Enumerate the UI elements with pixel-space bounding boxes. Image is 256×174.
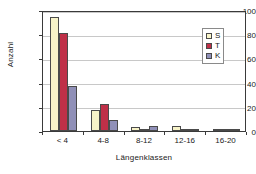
bar-t-0: [59, 33, 68, 131]
x-axis-tick-mark: [164, 132, 165, 135]
bar-t-3: [181, 129, 190, 131]
legend-item-s: S: [206, 31, 220, 41]
x-axis-tick-label: 12-16: [175, 136, 195, 145]
bar-s-2: [131, 127, 140, 131]
bar-k-2: [149, 126, 158, 131]
x-axis-tick-mark: [83, 132, 84, 135]
legend-swatch-icon: [206, 53, 212, 59]
x-axis-tick-label: 4-8: [97, 136, 109, 145]
bar-group: [165, 12, 206, 131]
bar-k-1: [109, 120, 118, 131]
x-axis-tick-mark: [42, 132, 43, 135]
legend-swatch-icon: [206, 33, 212, 39]
bar-k-3: [190, 129, 199, 131]
x-axis-tick-label: 8-12: [136, 136, 152, 145]
bar-t-1: [100, 104, 109, 131]
x-axis-tick-label: 16-20: [215, 136, 235, 145]
bar-chart: Anzahl 020406080100 < 44-88-1212-1616-20…: [0, 0, 256, 174]
x-axis-title: Längenklassen: [42, 153, 246, 162]
bar-k-4: [231, 129, 240, 131]
bar-group: [43, 12, 84, 131]
y-axis-title: Anzahl: [6, 25, 15, 85]
bar-group: [125, 12, 166, 131]
x-axis-tick-label: < 4: [57, 136, 68, 145]
legend-item-t: T: [206, 41, 220, 51]
x-axis-tick-mark: [124, 132, 125, 135]
legend: STK: [202, 28, 224, 64]
bar-k-0: [68, 86, 77, 131]
bar-s-0: [50, 17, 59, 131]
legend-item-k: K: [206, 51, 220, 61]
legend-label: T: [215, 42, 220, 50]
bar-group: [84, 12, 125, 131]
bar-t-2: [140, 129, 149, 131]
x-axis-tick-mark: [246, 132, 247, 135]
bar-s-3: [172, 126, 181, 131]
legend-label: K: [215, 52, 220, 60]
bar-s-1: [91, 110, 100, 131]
legend-label: S: [215, 32, 220, 40]
x-axis-tick-mark: [205, 132, 206, 135]
legend-swatch-icon: [206, 43, 212, 49]
bar-t-4: [222, 129, 231, 131]
bar-s-4: [213, 129, 222, 131]
